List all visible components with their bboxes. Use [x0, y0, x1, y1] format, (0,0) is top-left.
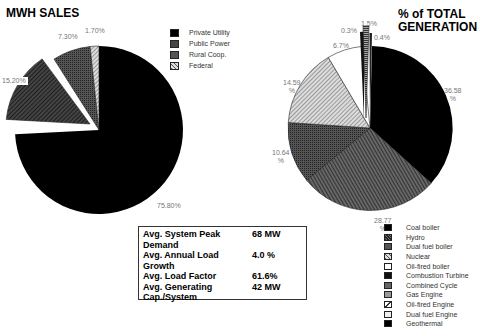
stat-value: 4.0 % — [252, 250, 302, 261]
swatch-dense-icon — [170, 51, 179, 59]
legend-label: Coal boiler — [406, 224, 439, 231]
left-chart-title: MWH SALES — [6, 7, 79, 20]
legend-item: Coal boiler — [384, 223, 469, 233]
stat-label: Cap./System — [143, 292, 248, 303]
legend-item: Public Power — [170, 38, 230, 49]
stat-label: Avg. Annual Load — [143, 250, 248, 261]
stat-label: Avg. Generating — [143, 282, 248, 293]
stat-row-cont: Growth — [143, 261, 302, 272]
swatch-solid-icon — [384, 272, 392, 279]
label-combined-cycle: 1.5% — [361, 20, 377, 28]
legend-label: Combustion Turbine — [406, 272, 469, 279]
legend-label: Geothermal — [406, 320, 443, 327]
label-unit: % — [272, 157, 290, 165]
legend-item: Oil-fired boiler — [384, 261, 469, 271]
label-combustion-turbine: 0.3% — [341, 27, 357, 35]
swatch-empty-icon — [384, 263, 392, 270]
stat-value: 42 MW — [252, 282, 302, 293]
legend-label: Hydro — [406, 234, 425, 241]
legend-label: Dual fuel boiler — [406, 243, 453, 250]
right-legend: Coal boiler Hydro Dual fuel boiler Nucle… — [384, 223, 469, 329]
swatch-slash-icon — [384, 301, 392, 308]
swatch-dense-icon — [384, 243, 392, 250]
legend-label: Dual fuel Engine — [406, 311, 457, 318]
legend-label: Federal — [189, 62, 213, 69]
label-coal-boiler: 36.58% — [444, 87, 462, 103]
swatch-light-diagonal-icon — [170, 62, 179, 70]
left-pie — [6, 46, 183, 214]
legend-label: Gas Engine — [406, 291, 443, 298]
label-dual-fuel-boiler: 10.64% — [272, 149, 290, 165]
label-federal: 1.70% — [85, 27, 105, 35]
stat-label: Growth — [143, 261, 248, 272]
label-public-power: 15.20% — [0, 77, 28, 85]
label-unit: % — [283, 87, 301, 95]
legend-item: Dual fuel Engine — [384, 309, 469, 319]
swatch-gray-icon — [384, 291, 392, 298]
swatch-hatch-icon — [384, 234, 392, 241]
swatch-light-diagonal-icon — [384, 253, 392, 260]
label-unit: % — [444, 95, 462, 103]
label-nuclear: 14.59% — [283, 79, 301, 95]
label-private-utility: 75.80% — [157, 202, 181, 210]
legend-label: Rural Coop. — [189, 51, 226, 58]
stat-row: Avg. Annual Load4.0 % — [143, 250, 302, 261]
legend-label: Combined Cycle — [406, 282, 457, 289]
stat-row: Avg. Generating42 MW — [143, 282, 302, 293]
stat-label: Avg. System Peak — [143, 229, 248, 240]
right-title-line2: GENERATION — [398, 21, 477, 34]
stat-row: Avg. Load Factor61.6% — [143, 271, 302, 282]
label-value: 14.59 — [283, 79, 301, 87]
legend-item: Nuclear — [384, 252, 469, 262]
legend-label: Private Utility — [189, 29, 230, 36]
left-legend: Private Utility Public Power Rural Coop.… — [170, 27, 230, 71]
legend-item: Rural Coop. — [170, 49, 230, 60]
stat-row-cont: Cap./System — [143, 292, 302, 303]
label-gas-engine: 0.4% — [374, 34, 390, 42]
right-chart-title: % of TOTAL GENERATION — [398, 8, 477, 34]
swatch-solid-icon — [170, 29, 179, 37]
legend-item: Federal — [170, 60, 230, 71]
system-stats-box: Avg. System Peak68 MW Demand Avg. Annual… — [138, 226, 307, 300]
legend-item: Combustion Turbine — [384, 271, 469, 281]
legend-label: Nuclear — [406, 253, 430, 260]
legend-item: Geothermal — [384, 319, 469, 329]
stat-value: 61.6% — [252, 271, 302, 282]
legend-item: Hydro — [384, 233, 469, 243]
label-rural-coop: 7.30% — [58, 33, 78, 41]
label-value: 10.64 — [272, 149, 290, 157]
legend-item: Private Utility — [170, 27, 230, 38]
legend-item: Oil-fired Engine — [384, 300, 469, 310]
stat-row-cont: Demand — [143, 240, 302, 251]
swatch-light-icon — [384, 311, 392, 318]
label-oil-fired-boiler: 6.7% — [333, 42, 349, 50]
swatch-diagonal-icon — [170, 40, 179, 48]
swatch-dense-icon — [384, 282, 392, 289]
right-pie — [288, 26, 453, 210]
legend-label: Oil-fired Engine — [406, 301, 454, 308]
legend-label: Public Power — [189, 40, 230, 47]
legend-item: Gas Engine — [384, 290, 469, 300]
swatch-solid-icon — [384, 320, 392, 327]
stat-row: Avg. System Peak68 MW — [143, 229, 302, 240]
stat-value: 68 MW — [252, 229, 302, 240]
swatch-solid-icon — [384, 224, 392, 231]
label-value: 36.58 — [444, 87, 462, 95]
stat-label: Avg. Load Factor — [143, 271, 248, 282]
legend-item: Dual fuel boiler — [384, 242, 469, 252]
stat-label: Demand — [143, 240, 248, 251]
legend-item: Combined Cycle — [384, 281, 469, 291]
legend-label: Oil-fired boiler — [406, 263, 450, 270]
